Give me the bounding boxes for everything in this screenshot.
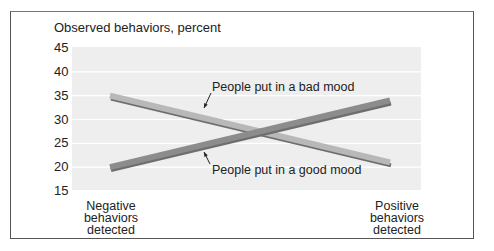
- x-category-negative: Negativebehaviorsdetected: [76, 200, 146, 236]
- series-line-0: [110, 96, 390, 163]
- annotation-good-mood: People put in a good mood: [212, 163, 361, 177]
- annotation-bad-mood: People put in a bad mood: [212, 80, 354, 94]
- annotation-arrows: [204, 93, 211, 164]
- x-category-positive: Positivebehaviorsdetected: [362, 200, 432, 236]
- data-series: [110, 96, 391, 171]
